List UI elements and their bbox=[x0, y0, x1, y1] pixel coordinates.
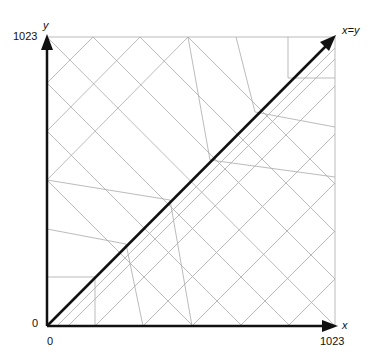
grid-line bbox=[170, 200, 192, 326]
x-min-label: 0 bbox=[47, 336, 53, 347]
grid-line bbox=[236, 37, 255, 112]
grid-line bbox=[210, 160, 335, 177]
x-axis-label: x bbox=[342, 320, 348, 331]
y-max-label: 1023 bbox=[13, 31, 37, 42]
grid-line bbox=[47, 180, 170, 200]
diagonal-label: x=y bbox=[342, 25, 359, 36]
diagram-canvas bbox=[0, 0, 374, 360]
grid-line bbox=[126, 244, 143, 326]
diagonal-line bbox=[47, 46, 326, 326]
grid-line bbox=[255, 112, 335, 127]
y-axis-label: y bbox=[43, 20, 49, 31]
grid-line bbox=[47, 229, 126, 244]
x-axis-arrow-icon bbox=[322, 320, 338, 332]
y-min-label: 0 bbox=[32, 318, 38, 329]
x-max-label: 1023 bbox=[320, 336, 344, 347]
y-axis-arrow-icon bbox=[41, 34, 53, 50]
